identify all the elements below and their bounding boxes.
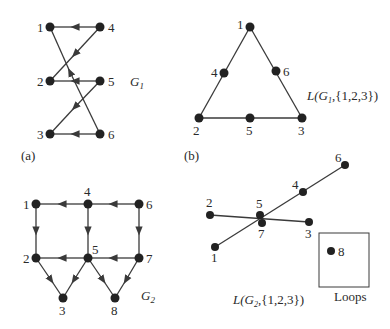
lg2-node-8: [327, 247, 335, 255]
g1-node-4-label: 4: [108, 20, 115, 35]
g2-node-1-label: 1: [23, 197, 30, 212]
g1-node-3-label: 3: [37, 127, 44, 142]
g1-node-2-label: 2: [37, 74, 44, 89]
lg2-node-2: [206, 211, 214, 219]
g2-node-7-label: 7: [146, 251, 153, 266]
g1-node-6: [96, 130, 105, 139]
lg2-node-5: [256, 211, 264, 219]
g2-node-5-label: 5: [92, 242, 99, 257]
lg2-node-2-label: 2: [206, 195, 213, 210]
panel-d-line-graph-lg2: 6 4 2 5 7 3 1 8 Loops L(G2,{1,2,3}): [206, 150, 369, 309]
lg1-node-1: [246, 23, 255, 32]
lg1-node-1-label: 1: [237, 17, 244, 32]
line-graph-figure: 1 4 2 5 3 6 G1 (a) 1 4 6 2 5 3 L(G1,{1,2…: [0, 0, 390, 329]
g1-edges: [50, 27, 100, 134]
lg1-node-3-label: 3: [298, 123, 305, 138]
g1-node-3: [46, 130, 55, 139]
lg1-node-6-label: 6: [283, 64, 290, 79]
g2-node-8: [111, 294, 120, 303]
lg1-title: L(G1,{1,2,3}): [306, 88, 378, 105]
g1-node-1: [46, 23, 55, 32]
g2-node-2: [32, 254, 41, 263]
lg2-node-3: [305, 218, 313, 226]
g1-node-5-label: 5: [108, 74, 115, 89]
lg2-node-1-label: 1: [211, 250, 218, 265]
g2-node-4-label: 4: [84, 184, 91, 199]
lg2-node-3-label: 3: [305, 226, 312, 241]
lg2-node-7-label: 7: [258, 226, 265, 241]
g1-title: G1: [130, 74, 144, 91]
lg1-node-2-label: 2: [193, 123, 200, 138]
caption-b: (b): [184, 148, 199, 163]
lg1-node-5-label: 5: [246, 123, 253, 138]
g2-node-6-label: 6: [146, 197, 153, 212]
g2-node-4: [84, 200, 93, 209]
g1-node-2: [46, 77, 55, 86]
g1-node-4: [96, 23, 105, 32]
panel-a-graph-g1: 1 4 2 5 3 6 G1 (a): [21, 20, 144, 163]
lg1-node-6: [272, 67, 281, 76]
lg1-node-2: [195, 114, 204, 123]
lg2-node-8-label: 8: [338, 244, 345, 259]
g2-node-8-label: 8: [111, 303, 118, 318]
lg1-node-5: [246, 114, 255, 123]
lg2-node-4-label: 4: [292, 177, 299, 192]
g1-node-1-label: 1: [37, 20, 44, 35]
lg2-title: L(G2,{1,2,3}): [232, 292, 304, 309]
g2-edges: [36, 204, 139, 298]
lg1-node-3: [298, 114, 307, 123]
lg1-node-4: [220, 69, 229, 78]
loops-box: [319, 233, 369, 287]
panel-b-line-graph-lg1: 1 4 6 2 5 3 L(G1,{1,2,3}) (b): [184, 17, 378, 163]
panel-c-graph-g2: 1 4 6 2 5 7 3 8 G2: [23, 184, 155, 318]
g2-node-1: [32, 200, 41, 209]
lg2-node-5-label: 5: [256, 196, 263, 211]
lg2-node-4: [299, 188, 307, 196]
caption-a: (a): [21, 148, 35, 163]
g2-title: G2: [141, 288, 155, 305]
g2-node-3-label: 3: [59, 303, 66, 318]
g2-node-7: [135, 254, 144, 263]
lg2-edges: [210, 165, 345, 247]
g2-node-3: [59, 294, 68, 303]
g2-node-2-label: 2: [23, 251, 30, 266]
g1-node-6-label: 6: [108, 127, 115, 142]
lg1-node-4-label: 4: [211, 65, 218, 80]
lg2-node-6: [341, 161, 349, 169]
g1-node-5: [96, 77, 105, 86]
lg2-node-6-label: 6: [335, 150, 342, 165]
loops-label: Loops: [334, 289, 367, 304]
g2-node-6: [135, 200, 144, 209]
